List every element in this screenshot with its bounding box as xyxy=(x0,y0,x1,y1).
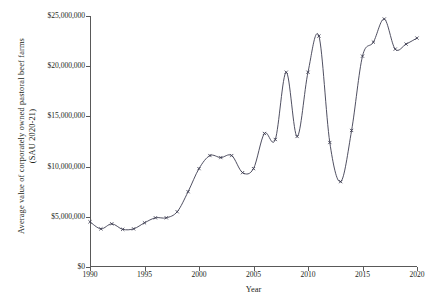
y-tick-mark xyxy=(86,116,90,117)
y-tick-label: $10,000,000 xyxy=(48,163,85,171)
data-point-marker xyxy=(143,221,146,224)
y-tick-label: $15,000,000 xyxy=(48,112,85,120)
x-axis-title: Year xyxy=(90,285,417,295)
y-axis-tick-labels: $0$5,000,000$10,000,000$15,000,000$20,00… xyxy=(34,0,88,290)
chart-figure: Average value of corporately owned pasto… xyxy=(0,0,436,307)
data-point-marker xyxy=(88,220,91,223)
data-point-marker xyxy=(252,167,255,170)
data-point-marker xyxy=(197,167,200,170)
data-point-marker xyxy=(415,36,418,39)
plot-area xyxy=(90,16,417,267)
x-tick-label: 1995 xyxy=(137,270,152,279)
data-point-marker xyxy=(241,171,244,174)
y-tick-label: $5,000,000 xyxy=(51,213,85,221)
x-tick-label: 2015 xyxy=(355,270,370,279)
data-point-marker xyxy=(394,48,397,51)
x-tick-label: 2000 xyxy=(192,270,207,279)
data-point-marker xyxy=(372,41,375,44)
data-point-marker xyxy=(263,132,266,135)
series-path xyxy=(90,19,417,230)
x-tick-label: 2005 xyxy=(246,270,261,279)
data-series-line xyxy=(90,16,417,267)
y-tick-mark xyxy=(86,167,90,168)
y-axis-title-line-1: Average value of corporately owned pasto… xyxy=(16,38,27,234)
y-tick-label: $20,000,000 xyxy=(48,62,85,70)
x-tick-label: 2010 xyxy=(301,270,316,279)
y-tick-mark xyxy=(86,66,90,67)
x-tick-label: 1990 xyxy=(83,270,98,279)
data-point-marker xyxy=(296,135,299,138)
x-tick-label: 2020 xyxy=(410,270,425,279)
data-point-marker xyxy=(230,154,233,157)
data-point-marker xyxy=(176,210,179,213)
data-point-marker xyxy=(405,43,408,46)
y-tick-mark xyxy=(86,217,90,218)
x-axis-tick-labels: 1990199520002005201020152020 xyxy=(90,270,417,284)
data-point-marker xyxy=(285,71,288,74)
y-tick-label: $25,000,000 xyxy=(48,12,85,20)
y-tick-mark xyxy=(86,16,90,17)
data-point-marker xyxy=(187,190,190,193)
